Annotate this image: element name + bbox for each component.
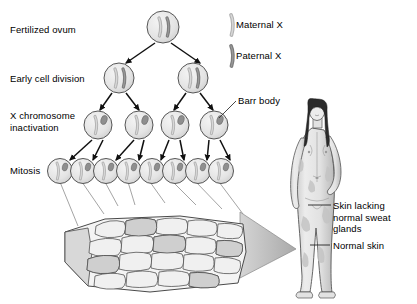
- legend-label-maternal-x: Maternal X: [236, 19, 283, 31]
- label-x-chromosome-inactivation: X chromosome inactivation: [10, 110, 75, 133]
- diagram-canvas: Fertilized ovum Early cell division X ch…: [0, 0, 417, 304]
- mosaic-skin-tissue: [65, 216, 246, 292]
- cell-xci-3: [161, 111, 189, 139]
- cell-mitosis-1: [48, 159, 73, 184]
- cell-ovum: [147, 11, 179, 43]
- cell-xci-4: [200, 111, 228, 139]
- cell-mitosis-4: [117, 159, 142, 184]
- cell-mitosis-2: [71, 159, 96, 184]
- label-mitosis: Mitosis: [10, 165, 40, 177]
- cell-mitosis-6: [163, 159, 188, 184]
- legend-maternal-chromosome-icon: [231, 15, 233, 35]
- cell-xci-2: [125, 111, 153, 139]
- label-normal-skin: Normal skin: [333, 240, 384, 252]
- label-early-cell-division: Early cell division: [10, 73, 85, 85]
- diagram-artwork: [0, 0, 417, 304]
- legend-paternal-chromosome-icon: [231, 46, 233, 66]
- label-fertilized-ovum: Fertilized ovum: [10, 24, 76, 36]
- label-skin-lacking-sweat-glands: Skin lacking normal sweat glands: [333, 200, 391, 235]
- cell-mitosis-5: [140, 159, 165, 184]
- cell-early-1: [104, 63, 134, 93]
- cell-mitosis-7: [186, 159, 211, 184]
- label-barr-body: Barr body: [238, 95, 280, 107]
- legend-label-paternal-x: Paternal X: [236, 50, 281, 62]
- cell-mitosis-8: [209, 159, 234, 184]
- cell-xci-1: [84, 111, 112, 139]
- cell-row-fertilized-ovum: [147, 11, 179, 43]
- cell-mitosis-3: [94, 159, 119, 184]
- cell-early-2: [178, 63, 208, 93]
